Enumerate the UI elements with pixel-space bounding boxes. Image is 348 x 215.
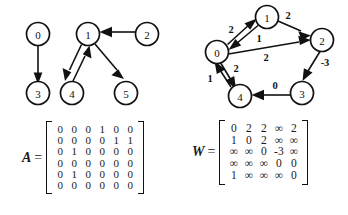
node-w-0[interactable]: 0 [206,41,229,64]
graph-left-svg: 0 1 2 3 4 5 [0,0,174,112]
matrix-a-cell: 1 [67,146,81,157]
node-0[interactable]: 0 [27,23,50,46]
node-w-3-label: 3 [299,88,305,100]
node-w-1[interactable]: 1 [256,6,279,29]
matrix-a-cell: 0 [53,146,67,157]
node-2[interactable]: 2 [136,23,159,46]
edge-w-2-to-3: -3 [303,52,330,82]
matrix-a-row: 000000 [53,180,137,191]
matrix-a-cell: 0 [81,180,95,191]
matrix-a-table: 000100000011010000000000010000000000 [53,124,137,191]
matrix-a-cell: 0 [53,180,67,191]
graph-right-panel: 2 1 2 2 [174,0,348,112]
node-3[interactable]: 3 [27,82,50,105]
node-w-0-label: 0 [214,47,220,59]
node-0-label: 0 [35,29,41,41]
edge-w-1-to-2: 2 [278,10,311,41]
node-5[interactable]: 5 [115,82,138,105]
matrix-w-cell: ∞ [256,170,271,182]
edge-weight-2-3: -3 [321,57,330,68]
edge-0-to-3 [34,45,43,84]
matrix-a-cell: 0 [123,146,137,157]
matrix-a-row: 000000 [53,158,137,169]
node-2-label: 2 [144,29,150,41]
edge-weight-1-0: 1 [256,33,261,44]
matrix-a-equals: = [34,150,42,166]
node-4[interactable]: 4 [61,82,84,105]
edge-weight-1-2: 2 [285,10,290,21]
matrix-w-panel: W = 022∞2102∞∞∞∞0-3∞∞∞∞001∞∞∞0 [180,112,348,215]
matrix-w-cell: 2 [286,123,301,135]
edge-weight-0-4: 2 [233,63,238,74]
node-w-4-label: 4 [237,91,243,103]
matrix-a-cell: 0 [67,180,81,191]
edge-weight-0-1: 2 [228,24,233,35]
graph-right-svg: 2 1 2 2 [174,0,348,112]
node-1[interactable]: 1 [77,23,100,46]
edge-w-3-to-4: 0 [252,80,291,101]
node-3-label: 3 [35,88,41,100]
matrix-a-row: 000011 [53,135,137,146]
matrix-a-cell: 0 [95,180,109,191]
matrix-a-equation: A = 000100000011010000000000010000000000 [22,121,144,194]
graph-left-panel: 0 1 2 3 4 5 [0,0,174,112]
edge-1-to-5 [95,44,124,79]
matrix-a-row: 010000 [53,169,137,180]
edge-2-to-1 [100,27,137,37]
matrix-w-cell: 0 [286,170,301,182]
figure-root: 0 1 2 3 4 5 [0,0,348,215]
matrix-w-cell: 1 [226,170,241,182]
matrix-w-name: W [192,144,204,160]
edge-4-to-1 [73,46,92,82]
edge-weight-3-4: 0 [272,80,277,91]
matrix-w-table: 022∞2102∞∞∞∞0-3∞∞∞∞001∞∞∞0 [226,123,301,182]
matrix-w-cell: ∞ [271,123,286,135]
matrix-a-cell: 0 [95,146,109,157]
matrix-w-cell: 2 [241,123,256,135]
edge-w-0-to-1: 2 [228,19,258,45]
matrix-w-cell: ∞ [241,170,256,182]
matrix-w-row: 022∞2 [226,123,301,135]
matrix-a-brackets: 000100000011010000000000010000000000 [46,121,144,194]
node-w-1-label: 1 [264,12,270,24]
node-w-4[interactable]: 4 [229,85,252,108]
matrix-w-brackets: 022∞2102∞∞∞∞0-3∞∞∞∞001∞∞∞0 [219,120,308,185]
node-1-label: 1 [85,29,91,41]
edge-weight-0-2: 2 [263,52,268,63]
matrix-a-cell: 0 [81,146,95,157]
matrix-w-equation: W = 022∞2102∞∞∞∞0-3∞∞∞∞001∞∞∞0 [192,120,308,185]
matrix-a-row: 000100 [53,124,137,135]
matrix-w-cell: 0 [226,123,241,135]
node-5-label: 5 [123,88,129,100]
matrix-a-cell: 0 [109,146,123,157]
node-w-2[interactable]: 2 [311,29,334,52]
matrix-a-panel: A = 000100000011010000000000010000000000 [0,112,180,215]
edge-weight-4-0: 1 [207,73,212,84]
node-w-2-label: 2 [319,35,325,47]
matrix-a-cell: 0 [123,180,137,191]
node-w-3[interactable]: 3 [291,82,314,105]
matrix-a-row: 010000 [53,146,137,157]
node-4-label: 4 [69,88,75,100]
matrix-w-cell: ∞ [271,170,286,182]
matrix-w-row: 1∞∞∞0 [226,170,301,182]
matrix-w-cell: 2 [256,123,271,135]
matrix-w-equals: = [207,144,215,160]
matrix-a-name: A [22,150,31,166]
matrix-a-cell: 0 [109,180,123,191]
edge-1-to-4 [63,45,82,82]
